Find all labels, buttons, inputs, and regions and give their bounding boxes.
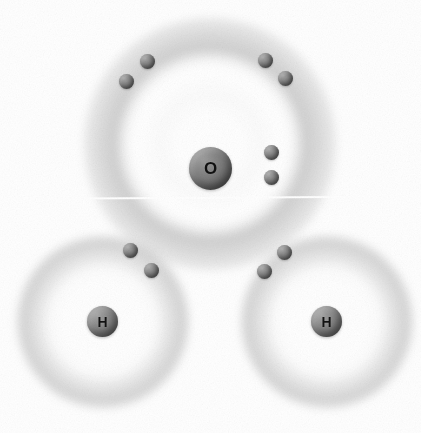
electron-e10: [257, 264, 272, 279]
oxygen-electron-shells: [84, 18, 336, 270]
oxygen-nucleus: O: [189, 147, 232, 190]
hydrogen-left-symbol-label: H: [97, 314, 107, 330]
electron-e6: [264, 170, 279, 185]
hydrogen-right-nucleus: H: [311, 306, 342, 337]
hydrogen-right-symbol-label: H: [321, 314, 331, 330]
paper-grain-texture: [0, 0, 421, 433]
electron-e7: [123, 243, 138, 258]
electron-e5: [264, 145, 279, 160]
water-molecule-diagram: O H H: [0, 0, 421, 433]
oxygen-inner-glow: [122, 56, 298, 232]
scanline-artifact: [0, 195, 421, 200]
hydrogen-left-nucleus: H: [87, 306, 118, 337]
oxygen-symbol-label: O: [204, 159, 217, 179]
electron-e3: [258, 53, 273, 68]
electron-e9: [277, 245, 292, 260]
electron-e2: [140, 54, 155, 69]
electron-e4: [278, 71, 293, 86]
electron-e1: [119, 74, 134, 89]
electron-e8: [144, 263, 159, 278]
